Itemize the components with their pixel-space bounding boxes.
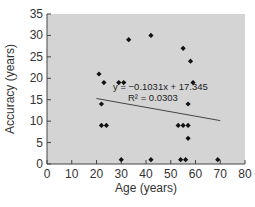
y-tick-label: 15: [30, 93, 44, 107]
x-tick-label: 10: [65, 167, 79, 181]
trend-equation: y = −0.1031x + 17.345: [113, 81, 208, 92]
x-tick-label: 70: [214, 167, 228, 181]
x-tick-label: 30: [115, 167, 129, 181]
trend-r-squared: R² = 0.0303: [128, 92, 178, 103]
y-tick-label: 10: [30, 114, 44, 128]
x-tick-label: 80: [238, 167, 252, 181]
scatter-chart: 0102030405060708005101520253035 y = −0.1…: [0, 0, 255, 207]
y-tick-label: 35: [30, 7, 44, 21]
y-tick-label: 30: [30, 28, 44, 42]
y-axis-title: Accuracy (years): [3, 44, 17, 134]
x-tick-label: 0: [44, 167, 51, 181]
x-axis-title: Age (years): [115, 181, 177, 195]
x-tick-label: 60: [189, 167, 203, 181]
y-tick-label: 20: [30, 71, 44, 85]
x-tick-label: 40: [139, 167, 153, 181]
x-tick-label: 20: [90, 167, 104, 181]
y-tick-label: 25: [30, 50, 44, 64]
y-tick-label: 5: [36, 136, 43, 150]
y-tick-label: 0: [36, 157, 43, 171]
x-tick-label: 50: [164, 167, 178, 181]
